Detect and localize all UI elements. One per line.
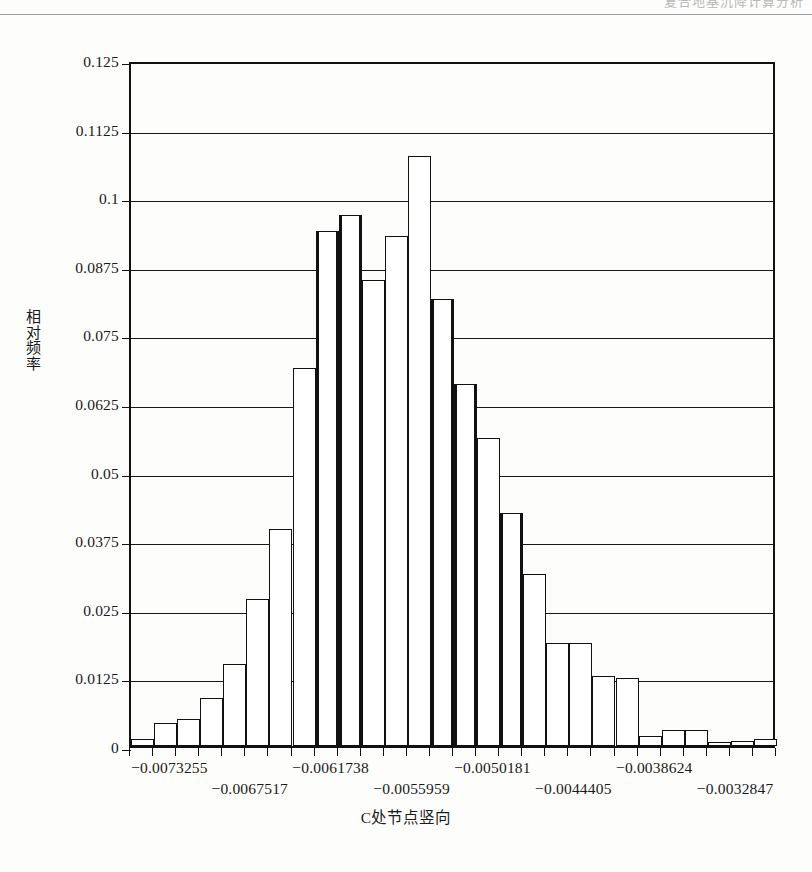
histogram-bar bbox=[500, 513, 523, 746]
y-axis-tick-label: 0.075 bbox=[83, 327, 119, 345]
x-axis-tick bbox=[129, 748, 130, 756]
y-axis-tick bbox=[122, 270, 131, 271]
y-axis-tick-label: 0.025 bbox=[83, 602, 119, 620]
histogram-bar bbox=[546, 643, 569, 746]
histogram-bar bbox=[316, 231, 339, 746]
histogram-bars bbox=[131, 64, 773, 746]
y-axis-tick bbox=[122, 407, 131, 408]
y-axis-tick bbox=[122, 613, 131, 614]
x-axis-tick bbox=[475, 748, 476, 756]
histogram-bar bbox=[731, 741, 754, 746]
histogram-bar bbox=[431, 299, 454, 746]
y-axis-labels: 00.01250.0250.03750.050.06250.0750.08750… bbox=[0, 62, 119, 748]
x-axis-tick bbox=[452, 748, 453, 756]
histogram-bar bbox=[177, 719, 200, 746]
x-axis-tick bbox=[221, 748, 222, 756]
y-axis-tick bbox=[122, 476, 131, 477]
x-axis-title-cjk: 处节点竖向 bbox=[371, 809, 451, 827]
y-axis-tick-label: 0.1 bbox=[99, 190, 119, 208]
plot-area bbox=[129, 62, 775, 748]
histogram-bar bbox=[200, 698, 223, 746]
scan-speckle bbox=[0, 838, 812, 872]
histogram-bar bbox=[293, 368, 316, 746]
histogram-bar bbox=[246, 599, 269, 746]
y-axis-tick-label: 0.0125 bbox=[75, 670, 119, 688]
histogram-bar bbox=[362, 280, 385, 746]
histogram-bar bbox=[569, 643, 592, 746]
histogram-bar bbox=[131, 739, 154, 746]
x-axis-tick-label: −0.0038624 bbox=[616, 759, 693, 777]
x-axis-tick bbox=[175, 748, 176, 756]
x-axis-tick bbox=[244, 748, 245, 756]
x-axis-tick bbox=[498, 748, 499, 756]
x-axis-tick-label: −0.0055959 bbox=[373, 780, 450, 798]
x-axis-labels: −0.0073255−0.0067517−0.0061738−0.0055959… bbox=[0, 757, 812, 807]
x-axis-tick-label: −0.0073255 bbox=[131, 759, 208, 777]
y-axis-tick bbox=[122, 201, 131, 202]
x-axis-tick bbox=[706, 748, 707, 756]
histogram-bar bbox=[408, 156, 431, 746]
x-axis-tick bbox=[198, 748, 199, 756]
histogram-bar bbox=[454, 384, 477, 746]
histogram-bar bbox=[754, 739, 777, 746]
histogram-bar bbox=[523, 574, 546, 746]
x-axis-tick bbox=[383, 748, 384, 756]
y-axis-tick-label: 0 bbox=[111, 739, 119, 757]
x-axis-tick bbox=[567, 748, 568, 756]
x-axis-tick bbox=[314, 748, 315, 756]
x-axis-tick bbox=[360, 748, 361, 756]
histogram-bar bbox=[339, 215, 362, 746]
x-axis-tick-label: −0.0067517 bbox=[211, 780, 288, 798]
x-axis-title: C处节点竖向 bbox=[0, 805, 812, 827]
y-axis-tick-label: 0.125 bbox=[83, 53, 119, 71]
x-axis-tick bbox=[614, 748, 615, 756]
x-axis-tick bbox=[337, 748, 338, 756]
x-axis-tick-label: −0.0050181 bbox=[454, 759, 531, 777]
x-axis-tick bbox=[683, 748, 684, 756]
x-axis-tick bbox=[544, 748, 545, 756]
y-axis-tick bbox=[122, 681, 131, 682]
histogram-bar bbox=[616, 678, 639, 746]
x-axis-tick bbox=[775, 748, 776, 756]
y-axis-tick-label: 0.0375 bbox=[75, 533, 119, 551]
y-axis-tick-label: 0.05 bbox=[91, 465, 119, 483]
x-axis-tick-label: −0.0061738 bbox=[292, 759, 369, 777]
y-axis-tick-label: 0.0625 bbox=[75, 396, 119, 414]
x-axis-tick bbox=[152, 748, 153, 756]
y-axis-tick-label: 0.0875 bbox=[75, 259, 119, 277]
x-axis-title-latin: C bbox=[361, 809, 371, 826]
histogram-bar bbox=[477, 438, 500, 746]
histogram-bar bbox=[708, 742, 731, 746]
histogram-bar bbox=[154, 723, 177, 746]
x-axis-tick-label: −0.0044405 bbox=[535, 780, 612, 798]
y-axis-tick bbox=[122, 64, 131, 65]
histogram-bar bbox=[385, 236, 408, 746]
x-axis-tick bbox=[521, 748, 522, 756]
histogram-bar bbox=[223, 664, 246, 746]
y-axis-tick bbox=[122, 544, 131, 545]
x-axis-tick bbox=[291, 748, 292, 756]
x-axis-tick-label: −0.0032847 bbox=[697, 780, 774, 798]
histogram-bar bbox=[662, 730, 685, 746]
histogram-chart: 相对频率 00.01250.0250.03750.050.06250.0750.… bbox=[0, 0, 812, 872]
y-axis-tick bbox=[122, 338, 131, 339]
x-axis-tick bbox=[429, 748, 430, 756]
histogram-bar bbox=[685, 730, 708, 746]
x-axis-tick bbox=[590, 748, 591, 756]
x-axis-tick bbox=[660, 748, 661, 756]
y-axis-tick-label: 0.1125 bbox=[76, 122, 119, 140]
histogram-bar bbox=[269, 529, 292, 746]
x-axis-tick bbox=[267, 748, 268, 756]
histogram-bar bbox=[592, 676, 615, 746]
histogram-bar bbox=[639, 736, 662, 746]
x-axis-tick bbox=[637, 748, 638, 756]
x-axis-tick bbox=[729, 748, 730, 756]
y-axis-tick bbox=[122, 133, 131, 134]
x-axis-tick bbox=[406, 748, 407, 756]
x-axis-tick bbox=[752, 748, 753, 756]
